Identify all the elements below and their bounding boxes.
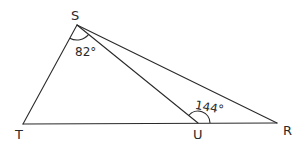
segment-st bbox=[23, 25, 77, 124]
segment-su bbox=[77, 25, 198, 123]
vertex-label-u: U bbox=[193, 127, 203, 142]
segment-tr bbox=[23, 123, 277, 124]
angle-label-u: 144° bbox=[194, 98, 225, 117]
segment-sr bbox=[77, 25, 277, 123]
vertex-label-r: R bbox=[283, 123, 292, 138]
angle-arc-s bbox=[70, 34, 89, 40]
vertex-label-t: T bbox=[14, 127, 23, 142]
geometry-diagram: S T U R 82° 144° bbox=[0, 0, 303, 149]
vertex-label-s: S bbox=[71, 8, 79, 23]
angle-label-s: 82° bbox=[75, 45, 96, 59]
